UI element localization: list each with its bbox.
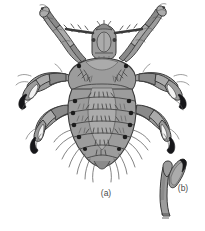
eye-right [113,38,117,42]
caption-a: (a) [101,188,112,198]
louse-illustration: (a) (b) [0,0,205,231]
eye-left [92,38,96,42]
figure-container: (a) (b) [0,0,205,231]
caption-b: (b) [178,183,189,193]
spiracle [124,64,128,68]
spiracle [77,64,81,68]
